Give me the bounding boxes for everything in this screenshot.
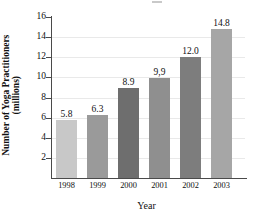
y-tick-label: 2: [22, 152, 46, 162]
x-tick-label: 1998: [50, 181, 83, 190]
x-tick-label: 2003: [205, 181, 238, 190]
y-tick-label: 4: [22, 132, 46, 142]
y-tick-label: 16: [22, 11, 46, 21]
y-axis-title-line1: Number of Yoga Practitioners: [2, 34, 12, 155]
bar: [180, 57, 201, 178]
x-tick-label: 2002: [174, 181, 207, 190]
bar: [118, 88, 139, 178]
cropped-title-artifact: [152, 1, 162, 3]
bar-value-label: 8.9: [111, 77, 146, 87]
x-tick-label: 2001: [143, 181, 176, 190]
bar-value-label: 6.3: [80, 104, 115, 114]
bar-value-label: 12.0: [173, 46, 208, 56]
bar-value-label: 5.8: [49, 109, 84, 119]
yoga-practitioners-bar-chart: Number of Yoga Practitioners (millions) …: [0, 0, 259, 220]
y-tick-label: 6: [22, 112, 46, 122]
bar: [56, 120, 77, 178]
plot-area: 5.86.38.99,912.014.8: [51, 17, 245, 178]
y-axis-title: Number of Yoga Practitioners (millions): [0, 0, 24, 190]
y-tick-label: 10: [22, 71, 46, 81]
y-tick-label: 12: [22, 51, 46, 61]
bar: [211, 29, 232, 178]
x-axis-title: Year: [0, 200, 259, 211]
bar: [87, 115, 108, 178]
bar-value-label: 9,9: [142, 67, 177, 77]
y-axis-line: [51, 16, 52, 179]
x-axis-line: [51, 178, 247, 179]
bar: [149, 78, 170, 178]
y-tick-label: 14: [22, 31, 46, 41]
bar-value-label: 14.8: [204, 18, 239, 28]
y-tick-label: 8: [22, 92, 46, 102]
y-axis-title-line2: (millions): [12, 34, 22, 155]
x-tick-label: 2000: [112, 181, 145, 190]
x-tick-label: 1999: [81, 181, 114, 190]
